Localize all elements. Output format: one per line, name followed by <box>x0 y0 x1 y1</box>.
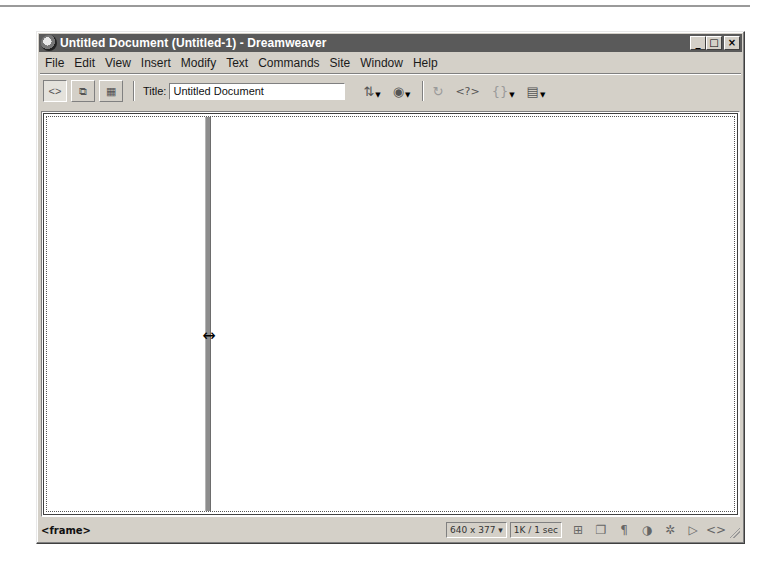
menu-window[interactable]: Window <box>355 56 408 70</box>
dropdown-caret-icon: ▼ <box>375 91 380 99</box>
dropdown-caret-icon: ▼ <box>540 91 545 99</box>
code-view-button[interactable]: <> <box>43 80 67 102</box>
code-inspector-launcher-icon[interactable]: <> <box>706 522 726 538</box>
title-label: Title: <box>143 85 166 97</box>
menu-edit-label: Edit <box>74 56 95 70</box>
menu-bar: File Edit View Insert Modify Text Comman… <box>40 54 741 72</box>
file-management-button[interactable]: ⇅▼ <box>363 84 380 99</box>
menu-help[interactable]: Help <box>408 56 443 70</box>
code-navigation-button[interactable]: {}▼ <box>492 84 515 99</box>
document-toolbar: <> ⧉ ▦ Title: ⇅▼ ◉▼ ↻ <?> {}▼ ▤▼ <box>43 78 738 104</box>
behaviors-launcher-icon[interactable]: ✲ <box>660 522 680 538</box>
resize-grip-icon[interactable] <box>728 526 740 538</box>
site-launcher-icon[interactable]: ⊞ <box>568 522 588 538</box>
resize-cursor-icon: ↔ <box>197 330 221 342</box>
status-bar: <frame> 640 x 377 ▾ 1K / 1 sec ⊞ ❐ ¶ ◑ ✲… <box>41 520 740 540</box>
globe-icon: ◉ <box>393 84 404 99</box>
menu-window-label: Window <box>360 56 403 70</box>
code-and-design-view-button[interactable]: ⧉ <box>71 80 95 102</box>
menu-insert[interactable]: Insert <box>136 56 176 70</box>
menu-help-label: Help <box>413 56 438 70</box>
document-canvas: ↔ <box>43 113 738 515</box>
menu-modify-label: Modify <box>181 56 216 70</box>
minimize-button[interactable]: _ <box>690 36 706 50</box>
menu-file-label: File <box>45 56 64 70</box>
dropdown-caret-icon: ▼ <box>509 91 514 99</box>
document-window: ↔ <box>41 111 740 517</box>
close-button[interactable]: × <box>724 36 740 50</box>
toolbar-divider <box>133 81 135 101</box>
maximize-button[interactable]: □ <box>706 36 722 50</box>
title-bar[interactable]: Untitled Document (Untitled-1) - Dreamwe… <box>39 34 742 52</box>
refresh-button[interactable]: ↻ <box>432 84 443 99</box>
menu-text-label: Text <box>226 56 248 70</box>
menu-file[interactable]: File <box>40 56 69 70</box>
menu-view-label: View <box>105 56 131 70</box>
file-management-icon: ⇅ <box>363 84 374 99</box>
reference-icon: <?> <box>455 85 479 98</box>
view-options-button[interactable]: ▤▼ <box>527 84 546 99</box>
menu-commands[interactable]: Commands <box>253 56 324 70</box>
dreamweaver-app-icon[interactable] <box>41 35 57 51</box>
dreamweaver-window: Untitled Document (Untitled-1) - Dreamwe… <box>36 31 745 544</box>
assets-launcher-icon[interactable]: ❐ <box>591 522 611 538</box>
design-view-icon: ▦ <box>106 85 116 98</box>
code-navigation-icon: {} <box>492 84 509 99</box>
html-styles-launcher-icon[interactable]: ¶ <box>614 522 634 538</box>
menu-separator <box>40 73 741 75</box>
page-divider <box>0 5 750 7</box>
frameset: ↔ <box>46 116 735 512</box>
menu-site-label: Site <box>330 56 351 70</box>
view-options-icon: ▤ <box>527 84 539 99</box>
design-view-button[interactable]: ▦ <box>99 80 123 102</box>
toolbar-divider <box>422 81 424 101</box>
tag-selector-frame[interactable]: <frame> <box>41 525 91 536</box>
menu-view[interactable]: View <box>100 56 136 70</box>
window-title: Untitled Document (Untitled-1) - Dreamwe… <box>60 36 326 50</box>
menu-edit[interactable]: Edit <box>69 56 100 70</box>
code-view-icon: <> <box>49 85 62 97</box>
left-frame[interactable] <box>47 117 205 511</box>
download-stats: 1K / 1 sec <box>510 522 562 538</box>
document-title-input[interactable] <box>169 83 345 100</box>
timelines-launcher-icon[interactable]: ▷ <box>683 522 703 538</box>
menu-text[interactable]: Text <box>221 56 253 70</box>
menu-commands-label: Commands <box>258 56 319 70</box>
main-frame[interactable] <box>211 117 734 511</box>
reference-button[interactable]: <?> <box>455 85 479 98</box>
css-styles-launcher-icon[interactable]: ◑ <box>637 522 657 538</box>
menu-modify[interactable]: Modify <box>176 56 221 70</box>
menu-insert-label: Insert <box>141 56 171 70</box>
window-controls: _ □ × <box>690 36 740 50</box>
status-right: 640 x 377 ▾ 1K / 1 sec ⊞ ❐ ¶ ◑ ✲ ▷ <> <box>446 522 740 538</box>
preview-in-browser-button[interactable]: ◉▼ <box>393 84 411 99</box>
dropdown-caret-icon: ▼ <box>405 91 410 99</box>
refresh-icon: ↻ <box>432 84 443 99</box>
menu-site[interactable]: Site <box>325 56 356 70</box>
window-size-dropdown[interactable]: 640 x 377 ▾ <box>446 522 507 538</box>
split-view-icon: ⧉ <box>79 85 87 98</box>
